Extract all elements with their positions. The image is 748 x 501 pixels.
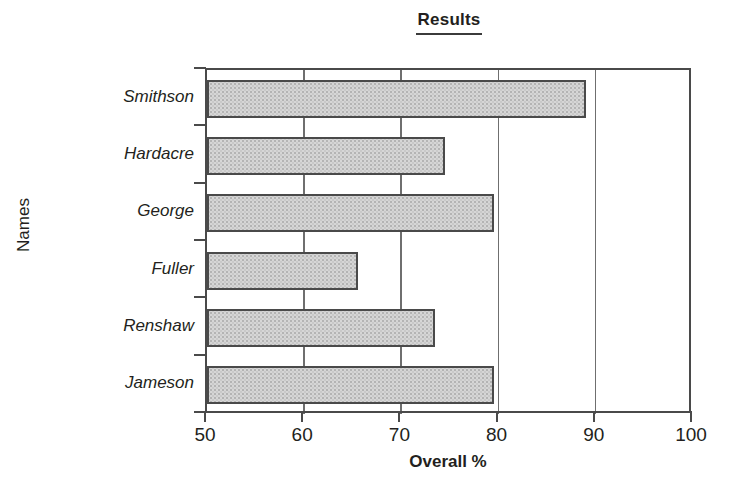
y-tick-mark — [194, 124, 206, 126]
y-label-fuller: Fuller — [14, 260, 194, 277]
x-tick-label-60: 60 — [272, 424, 332, 446]
y-label-jameson: Jameson — [14, 374, 194, 391]
x-tick-mark-80 — [496, 411, 498, 422]
x-axis-line — [205, 411, 691, 413]
x-tick-label-90: 90 — [564, 424, 624, 446]
x-tick-label-80: 80 — [467, 424, 527, 446]
bar-george — [207, 194, 494, 232]
x-tick-mark-70 — [398, 411, 400, 422]
bar-band — [207, 70, 689, 127]
bar-hardacre — [207, 137, 445, 175]
bar-band — [207, 185, 689, 242]
x-tick-mark-90 — [593, 411, 595, 422]
x-tick-label-50: 50 — [175, 424, 235, 446]
y-tick-mark — [194, 239, 206, 241]
y-tick-mark — [194, 67, 206, 69]
bar-band — [207, 299, 689, 356]
y-label-smithson: Smithson — [14, 88, 194, 105]
x-tick-mark-50 — [204, 411, 206, 422]
chart-figure: Results SmithsonHardacreGeorgeFullerRens… — [0, 0, 748, 501]
y-label-george: George — [14, 202, 194, 219]
bar-fuller — [207, 252, 358, 290]
x-tick-label-100: 100 — [661, 424, 721, 446]
bar-renshaw — [207, 309, 435, 347]
bar-band — [207, 357, 689, 414]
bar-band — [207, 127, 689, 184]
x-axis-title: Overall % — [205, 452, 691, 472]
bar-band — [207, 242, 689, 299]
y-tick-mark — [194, 354, 206, 356]
x-tick-label-70: 70 — [369, 424, 429, 446]
y-tick-mark — [194, 296, 206, 298]
bar-smithson — [207, 80, 586, 118]
plot-area — [205, 68, 691, 412]
chart-title: Results — [0, 10, 748, 35]
y-label-hardacre: Hardacre — [14, 145, 194, 162]
y-tick-mark — [194, 182, 206, 184]
y-axis-title: Names — [14, 175, 34, 275]
x-tick-mark-60 — [301, 411, 303, 422]
y-label-renshaw: Renshaw — [14, 317, 194, 334]
x-tick-mark-100 — [690, 411, 692, 422]
bar-jameson — [207, 366, 494, 404]
chart-title-text: Results — [416, 10, 483, 35]
